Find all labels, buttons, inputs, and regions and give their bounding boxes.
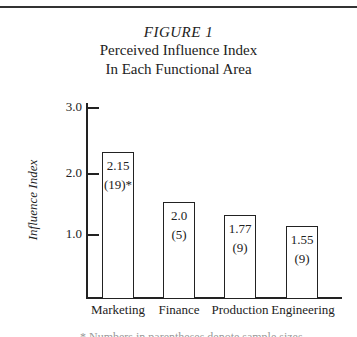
bar-value: 1.55 [287,232,317,248]
category-label-production: Production [205,302,275,318]
footnote: * Numbers in parentheses denote sample s… [80,330,350,337]
bar-sample-size: (9) [225,240,255,256]
y-axis [86,103,88,299]
category-label-finance: Finance [144,302,214,318]
y-axis-label: Influence Index [25,145,41,255]
y-tick-3 [87,107,99,109]
bar-sample-size: (9) [287,251,317,267]
bar-sample-size: (5) [164,227,194,243]
y-tick-2 [87,173,99,175]
bar-sample-size: (19)* [103,177,133,193]
y-tick-label-3: 3.0 [52,99,82,115]
y-tick-label-2: 2.0 [52,165,82,181]
chart-title-line2: In Each Functional Area [0,61,357,78]
bar-finance: 2.0 (5) [163,202,195,298]
bar-value: 2.0 [164,208,194,224]
bar-value: 1.77 [225,221,255,237]
top-rule [0,6,357,8]
bar-marketing: 2.15 (19)* [102,152,134,298]
y-tick-1 [87,234,99,236]
category-label-engineering: Engineering [268,302,338,318]
chart-title-line1: Perceived Influence Index [0,42,357,59]
figure-label: FIGURE 1 [0,24,357,41]
bar-engineering: 1.55 (9) [286,226,318,298]
bar-value: 2.15 [103,158,133,174]
y-tick-label-1: 1.0 [52,226,82,242]
bar-production: 1.77 (9) [224,215,256,298]
category-label-marketing: Marketing [83,302,153,318]
